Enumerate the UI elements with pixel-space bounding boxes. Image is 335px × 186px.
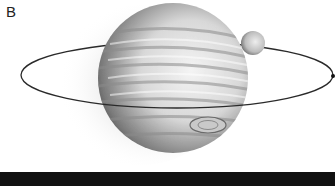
- planet-orbit-illustration: B: [0, 0, 335, 186]
- moon: [241, 31, 265, 55]
- planet-great-spot: [190, 117, 226, 133]
- illustration-canvas: [0, 0, 335, 186]
- orbit-marker-dot: [331, 74, 335, 78]
- bottom-bar: [0, 172, 335, 186]
